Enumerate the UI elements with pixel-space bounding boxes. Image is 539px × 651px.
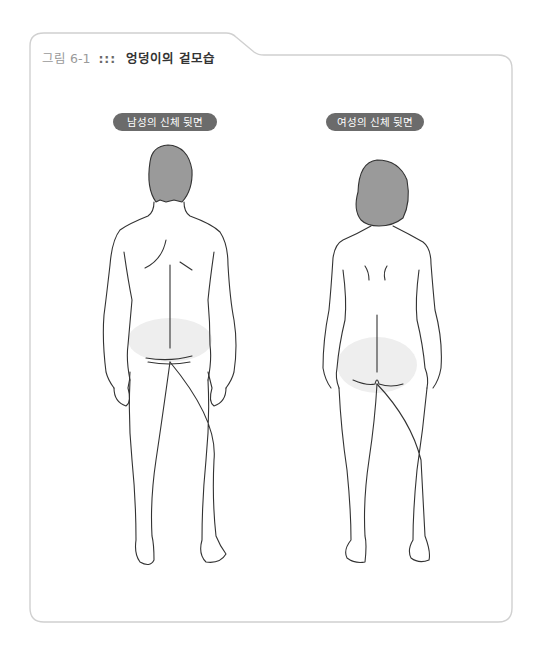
male-back-illustration (70, 140, 270, 580)
female-back-label: 여성의 신체 뒷면 (326, 113, 424, 131)
male-back-label: 남성의 신체 뒷면 (113, 113, 217, 131)
figure-separator: ::: (98, 51, 116, 66)
figure-number: 그림 6-1 (42, 51, 90, 66)
female-back-illustration (295, 140, 485, 580)
figure-title: 그림 6-1 ::: 엉덩이의 겉모습 (42, 48, 215, 67)
figure-caption: 엉덩이의 겉모습 (126, 51, 214, 66)
